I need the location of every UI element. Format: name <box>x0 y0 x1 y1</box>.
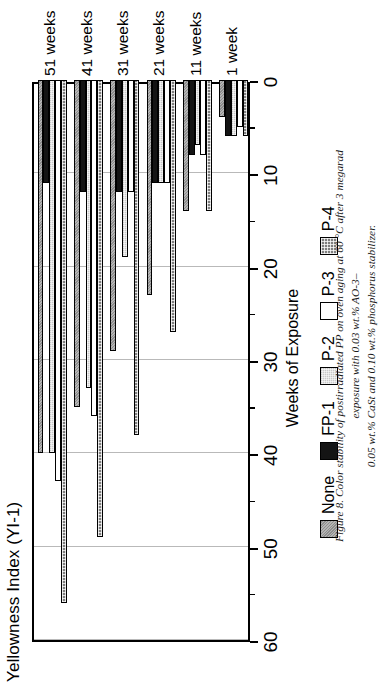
axis-tick-label-0: 0 <box>260 76 282 87</box>
axis-tick-label-50: 50 <box>260 538 282 559</box>
bar-group <box>179 84 215 640</box>
bar-group <box>34 84 70 640</box>
tick-minor-35 <box>250 407 255 408</box>
caption-line-1: Figure 8. Color stability of postirradia… <box>333 150 361 542</box>
bars-layer <box>34 84 248 640</box>
category-label-31-weeks: 31 weeks <box>114 10 132 75</box>
category-label-41-weeks: 41 weeks <box>78 10 96 75</box>
axis-tick-label-10: 10 <box>260 164 282 185</box>
axis-title: Weeks of Exposure <box>284 288 302 426</box>
tick-minor-45 <box>250 500 255 501</box>
tick-0 <box>250 81 258 83</box>
caption-line-2: 0.05 wt.% CaSt and 0.10 wt.% phosphorus … <box>365 224 377 466</box>
value-axis-labels: 6050403020100 <box>260 82 284 642</box>
bar-group <box>70 84 106 640</box>
bar-group <box>107 84 143 640</box>
category-label-21-weeks: 21 weeks <box>150 10 168 75</box>
category-label-11-weeks: 11 weeks <box>187 11 205 75</box>
category-label-51-weeks: 51 weeks <box>41 10 59 75</box>
bar-group <box>143 84 179 640</box>
tick-20 <box>250 267 258 269</box>
plot-area <box>32 82 250 642</box>
axis-tick-label-40: 40 <box>260 444 282 465</box>
bar-p-4-1-week <box>243 80 249 136</box>
bar-p-4-41-weeks <box>97 80 103 537</box>
figure-caption: Figure 8. Color stability of postirradia… <box>326 0 384 691</box>
tick-minor-15 <box>250 220 255 221</box>
tick-50 <box>250 547 258 549</box>
tick-30 <box>250 361 258 363</box>
tick-10 <box>250 174 258 176</box>
figure-root: Yellowness Index (YI-1) 6050403020100 1 … <box>0 0 388 691</box>
tick-minor-25 <box>250 313 255 314</box>
bar-p-4-51-weeks <box>61 80 67 603</box>
axis-tick-label-30: 30 <box>260 351 282 372</box>
chart-title: Yellowness Index (YI-1) <box>4 501 24 681</box>
bar-group <box>216 84 252 640</box>
value-axis-ticks <box>250 82 259 642</box>
tick-60 <box>250 641 258 643</box>
category-label-1-week: 1 week <box>223 26 241 75</box>
bar-p-4-31-weeks <box>134 80 140 435</box>
axis-tick-label-60: 60 <box>260 631 282 652</box>
tick-minor-55 <box>250 593 255 594</box>
bar-chart: Yellowness Index (YI-1) 6050403020100 1 … <box>2 48 302 688</box>
tick-40 <box>250 454 258 456</box>
bar-p-4-11-weeks <box>206 80 212 211</box>
tick-minor-5 <box>250 127 255 128</box>
bar-p-4-21-weeks <box>170 80 176 332</box>
axis-tick-label-20: 20 <box>260 258 282 279</box>
